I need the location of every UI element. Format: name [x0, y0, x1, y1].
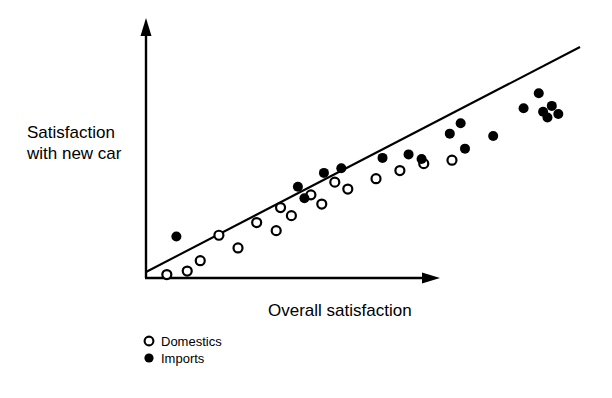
- data-point-domestics: [276, 203, 285, 212]
- data-point-imports: [460, 144, 470, 154]
- legend-marker-imports: [144, 353, 153, 362]
- data-point-imports: [547, 101, 557, 111]
- y-axis-label: Satisfactionwith new car: [27, 122, 121, 164]
- legend-marker-domestics: [145, 337, 154, 346]
- data-point-domestics: [252, 218, 261, 227]
- data-point-domestics: [272, 226, 281, 235]
- data-point-domestics: [234, 243, 243, 252]
- data-point-domestics: [214, 231, 223, 240]
- data-point-imports: [336, 163, 346, 173]
- y-axis-arrowhead: [141, 18, 152, 36]
- data-point-imports: [404, 149, 414, 159]
- data-point-domestics: [183, 267, 192, 276]
- y-axis-label-line-1: Satisfaction: [27, 123, 115, 142]
- regression-line: [146, 47, 580, 272]
- data-point-domestics: [196, 256, 205, 265]
- data-point-imports: [445, 129, 455, 139]
- data-point-imports: [171, 231, 181, 241]
- legend-label-domestics: Domestics: [161, 334, 222, 350]
- data-point-imports: [293, 182, 303, 192]
- scatter-plot-figure: Satisfactionwith new car Overall satisfa…: [0, 0, 612, 398]
- data-point-imports: [534, 88, 544, 98]
- data-point-domestics: [162, 270, 171, 279]
- axes: [141, 18, 441, 284]
- data-point-domestics: [447, 156, 456, 165]
- data-points: [162, 88, 563, 279]
- data-point-imports: [378, 153, 388, 163]
- x-axis-arrowhead: [422, 273, 440, 284]
- data-point-imports: [553, 109, 563, 119]
- legend-label-imports: Imports: [161, 351, 204, 367]
- x-axis-label: Overall satisfaction: [268, 300, 412, 321]
- data-point-imports: [519, 103, 529, 113]
- data-point-domestics: [372, 174, 381, 183]
- plot-canvas: [0, 0, 612, 398]
- data-point-imports: [488, 131, 498, 141]
- trend-line: [146, 47, 580, 272]
- data-point-imports: [456, 118, 466, 128]
- data-point-imports: [299, 193, 309, 203]
- data-point-imports: [417, 154, 427, 164]
- data-point-imports: [319, 168, 329, 178]
- data-point-domestics: [287, 211, 296, 220]
- data-point-domestics: [330, 178, 339, 187]
- data-point-domestics: [317, 200, 326, 209]
- data-point-domestics: [343, 185, 352, 194]
- data-point-domestics: [395, 166, 404, 175]
- data-point-imports: [542, 112, 552, 122]
- y-axis-label-line-2: with new car: [27, 144, 121, 163]
